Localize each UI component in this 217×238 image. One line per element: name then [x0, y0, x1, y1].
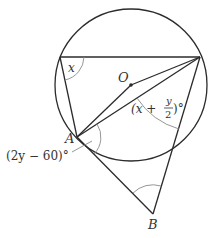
center-point-o — [129, 83, 133, 87]
label-b: B — [147, 217, 158, 232]
label-angle-right-prefix: (x + — [131, 102, 156, 116]
label-angle-right-suffix: )° — [173, 102, 184, 116]
label-x: x — [68, 61, 75, 75]
label-angle-right-den: 2 — [165, 109, 171, 120]
angle-arc-z — [133, 185, 161, 193]
geometry-diagram: x O A B (x + y 2 )° (2y − 60)° — [0, 0, 217, 238]
segment-oq — [131, 57, 200, 85]
line-ab — [77, 137, 153, 214]
chord-aq — [77, 57, 200, 137]
label-angle-a: (2y − 60)° — [6, 149, 69, 163]
label-o: O — [118, 70, 129, 85]
label-a: A — [64, 131, 74, 146]
label-angle-right-num: y — [165, 95, 172, 106]
line-qb — [153, 57, 200, 214]
segment-ao — [77, 85, 131, 137]
angle-arc-2y-minus-60 — [94, 124, 101, 154]
